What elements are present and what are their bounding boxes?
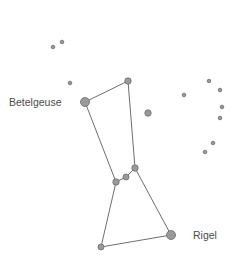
star-head-star-1 (51, 45, 55, 49)
line-betelgeuse-to-bellatrix (85, 81, 128, 102)
star-saiph (98, 244, 104, 250)
stars (51, 40, 224, 250)
star-shield-star-4 (220, 105, 224, 109)
line-bellatrix-to-belt-right (128, 81, 135, 168)
star-belt-right (132, 165, 138, 171)
line-belt-right-to-rigel (135, 168, 171, 235)
star-isolated-star (145, 110, 151, 116)
star-bellatrix (125, 78, 131, 84)
orion-constellation-diagram: Betelgeuse Rigel (0, 0, 235, 264)
star-belt-left (113, 179, 119, 185)
star-head-star-3 (68, 81, 72, 85)
star-betelgeuse (81, 98, 90, 107)
star-rigel (167, 231, 176, 240)
star-head-star-2 (60, 40, 64, 44)
star-shield-star-1 (182, 93, 186, 97)
star-shield-star-2 (207, 79, 211, 83)
star-shield-star-3 (218, 88, 222, 92)
star-shield-star-5 (218, 116, 222, 120)
line-betelgeuse-to-belt-left (85, 102, 116, 182)
constellation-lines (85, 81, 171, 247)
line-saiph-to-rigel (101, 235, 171, 247)
star-shield-star-6 (211, 141, 215, 145)
star-belt-middle (123, 174, 129, 180)
betelgeuse-label: Betelgeuse (9, 96, 62, 108)
star-shield-star-7 (203, 150, 207, 154)
line-belt-left-to-saiph (101, 182, 116, 247)
rigel-label: Rigel (193, 229, 217, 241)
